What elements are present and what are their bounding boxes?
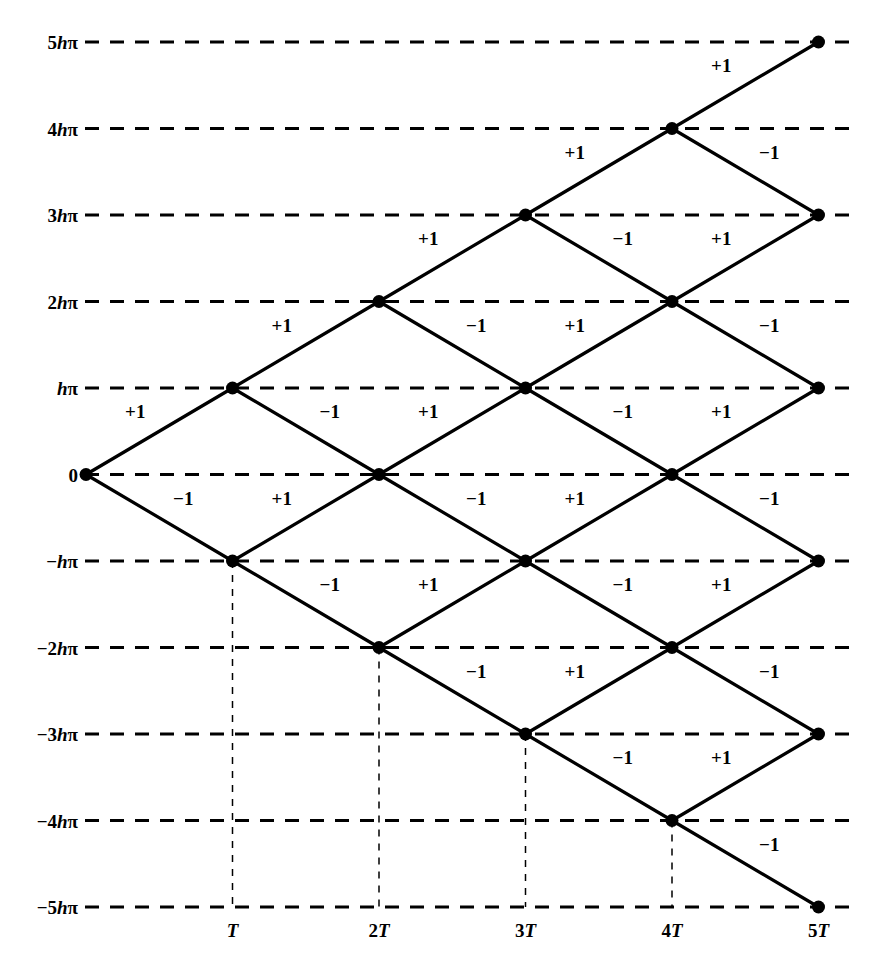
x-tick-symbol: T <box>227 920 239 941</box>
x-tick-prefix: 2 <box>368 920 378 941</box>
lattice-edge <box>526 388 673 475</box>
lattice-edge <box>379 215 526 302</box>
lattice-edge <box>379 388 526 475</box>
lattice-edge <box>379 561 526 648</box>
edge-label-down: −1 <box>466 315 486 334</box>
lattice-node <box>812 728 825 741</box>
y-tick-unit: π <box>68 637 78 658</box>
edge-label-up: +1 <box>565 661 585 680</box>
lattice-node <box>373 295 386 308</box>
y-axis-tick-label: −5hπ <box>37 898 78 917</box>
y-axis-tick-label: hπ <box>57 379 78 398</box>
lattice-node <box>519 728 532 741</box>
lattice-edge <box>233 561 380 648</box>
y-tick-symbol: h <box>57 291 68 312</box>
lattice-edge <box>526 302 673 389</box>
lattice-edge <box>526 561 673 648</box>
edge-label-up: +1 <box>565 488 585 507</box>
y-axis-tick-label: −2hπ <box>37 638 78 657</box>
x-tick-prefix: 5 <box>808 920 818 941</box>
y-tick-unit: π <box>68 118 78 139</box>
lattice-edge <box>526 648 673 735</box>
lattice-edge <box>672 388 819 475</box>
x-tick-symbol: T <box>524 920 536 941</box>
edge-label-down: −1 <box>320 402 340 421</box>
edge-label-up: +1 <box>711 575 731 594</box>
lattice-node <box>666 295 679 308</box>
lattice-node <box>812 555 825 568</box>
lattice-node <box>812 36 825 49</box>
y-tick-prefix: −2 <box>37 637 57 658</box>
x-tick-symbol: T <box>378 920 390 941</box>
lattice-edge <box>233 475 380 562</box>
lattice-node <box>666 641 679 654</box>
lattice-edge <box>233 388 380 475</box>
y-tick-unit: π <box>68 32 78 53</box>
lattice-node <box>812 382 825 395</box>
y-axis-tick-label: 4hπ <box>48 119 79 138</box>
x-tick-prefix: 4 <box>661 920 671 941</box>
lattice-edge <box>672 734 819 821</box>
lattice-edge <box>526 734 673 821</box>
lattice-canvas <box>0 0 870 970</box>
y-tick-unit: π <box>68 551 78 572</box>
lattice-node <box>226 555 239 568</box>
edge-label-up: +1 <box>418 575 438 594</box>
lattice-node <box>80 468 93 481</box>
edge-label-up: +1 <box>565 315 585 334</box>
lattice-node <box>373 468 386 481</box>
lattice-edge <box>86 388 233 475</box>
lattice-edge <box>526 475 673 562</box>
lattice-edge <box>672 215 819 302</box>
x-axis-tick-label: 2T <box>368 921 389 940</box>
edge-label-down: −1 <box>613 402 633 421</box>
lattice-edge <box>672 821 819 908</box>
lattice-edge <box>526 129 673 216</box>
edge-label-down: −1 <box>759 488 779 507</box>
y-tick-unit: π <box>68 897 78 918</box>
edge-label-up: +1 <box>272 488 292 507</box>
y-tick-prefix: −5 <box>37 897 57 918</box>
y-tick-unit: π <box>68 810 78 831</box>
y-axis-tick-label: −hπ <box>46 552 78 571</box>
y-tick-unit: π <box>68 291 78 312</box>
edge-label-up: +1 <box>711 402 731 421</box>
y-axis-tick-label: −3hπ <box>37 725 78 744</box>
edge-label-up: +1 <box>565 142 585 161</box>
lattice-node <box>666 122 679 135</box>
lattice-node <box>519 555 532 568</box>
edge-label-up: +1 <box>711 56 731 75</box>
lattice-edge <box>86 475 233 562</box>
lattice-edge <box>672 648 819 735</box>
lattice-node <box>226 382 239 395</box>
y-tick-prefix: −4 <box>37 810 57 831</box>
lattice-node <box>373 641 386 654</box>
y-tick-symbol: h <box>57 897 68 918</box>
edge-label-down: −1 <box>613 575 633 594</box>
lattice-edge <box>526 215 673 302</box>
y-tick-symbol: h <box>57 637 68 658</box>
y-axis-tick-label: 5hπ <box>48 33 79 52</box>
gridlines-group <box>85 42 852 907</box>
edge-label-down: −1 <box>613 229 633 248</box>
y-tick-symbol: h <box>57 810 68 831</box>
edge-label-up: +1 <box>711 229 731 248</box>
lattice-edge <box>672 302 819 389</box>
edge-label-down: −1 <box>759 834 779 853</box>
y-tick-unit: π <box>68 378 78 399</box>
lattice-node <box>519 382 532 395</box>
edge-label-up: +1 <box>418 402 438 421</box>
x-axis-tick-label: T <box>227 921 239 940</box>
lattice-edge <box>672 475 819 562</box>
edge-label-down: −1 <box>759 315 779 334</box>
y-tick-unit: π <box>68 724 78 745</box>
y-tick-prefix: 5 <box>48 32 58 53</box>
y-axis-tick-label: 0 <box>69 465 79 484</box>
edge-label-up: +1 <box>272 315 292 334</box>
lattice-figure: 5hπ4hπ3hπ2hπhπ0−hπ−2hπ−3hπ−4hπ−5hπ T2T3T… <box>0 0 870 970</box>
lattice-edge <box>672 42 819 129</box>
lattice-edge <box>672 561 819 648</box>
y-tick-symbol: h <box>57 32 68 53</box>
y-tick-symbol: h <box>57 551 68 572</box>
y-tick-prefix: 2 <box>48 291 58 312</box>
